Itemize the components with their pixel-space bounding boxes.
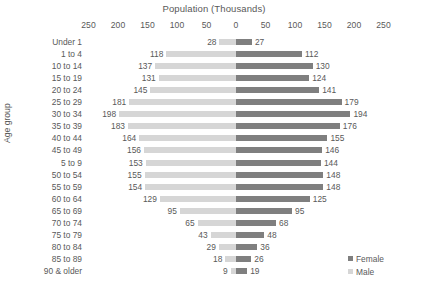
value-label-male: 118 [150,49,163,59]
value-label-male: 154 [128,182,142,192]
chart-row: 50 to 54155148 [0,169,428,181]
x-axis-tick-9: 200 [347,20,361,30]
value-label-female: 144 [324,158,338,168]
value-label-male: 155 [128,170,142,180]
value-label-female: 179 [345,97,359,107]
category-label: 60 to 64 [0,194,82,204]
value-label-female: 48 [267,230,276,240]
x-axis-tick-0: 250 [81,20,95,30]
chart-row: 10 to 14137130 [0,60,428,72]
bar-female [236,172,323,178]
bar-female [236,232,264,238]
bar-female [236,135,327,141]
bar-female [236,208,292,214]
bar-female [236,75,309,81]
category-label: 70 to 74 [0,218,82,228]
chart-row: Under 12827 [0,36,428,48]
chart-row: 70 to 746568 [0,217,428,229]
category-label: 10 to 14 [0,61,82,71]
bar-male [139,135,236,141]
chart-row: 60 to 64129125 [0,193,428,205]
bar-female [236,147,322,153]
legend-item[interactable]: Male [348,265,384,278]
chart-row: 65 to 699595 [0,205,428,217]
category-label: 65 to 69 [0,206,82,216]
chart-row: 40 to 44164155 [0,132,428,144]
value-label-female: 125 [313,194,327,204]
value-label-female: 19 [250,266,259,276]
value-label-male: 95 [168,206,177,216]
value-label-male: 183 [111,121,125,131]
x-axis-tick-6: 50 [261,20,271,30]
bar-male [219,244,236,250]
plot-area: Under 128271 to 411811210 to 1413713015 … [0,36,428,286]
x-axis-tick-4: 50 [202,20,212,30]
category-label: 90 & older [0,266,82,276]
bar-male [119,111,236,117]
bar-male [211,232,236,238]
legend-item[interactable]: Female [348,252,384,265]
value-label-female: 130 [316,61,330,71]
bar-male [198,220,236,226]
value-label-male: 129 [143,194,157,204]
bar-female [236,87,319,93]
x-axis-tick-3: 100 [170,20,184,30]
bar-female [236,256,251,262]
bar-female [236,196,310,202]
category-label: 80 to 84 [0,242,82,252]
legend-swatch-icon [348,269,353,274]
bar-female [236,63,313,69]
value-label-female: 68 [279,218,288,228]
category-label: 1 to 4 [0,49,82,59]
bar-male [145,184,236,190]
value-label-male: 198 [102,109,116,119]
chart-row: 15 to 19131124 [0,72,428,84]
x-axis-tick-2: 150 [140,20,154,30]
bar-female [236,99,342,105]
bar-male [160,196,236,202]
category-label: 55 to 59 [0,182,82,192]
category-label: 20 to 24 [0,85,82,95]
value-label-male: 137 [138,61,152,71]
value-label-female: 95 [295,206,304,216]
category-label: 35 to 39 [0,121,82,131]
category-label: 45 to 49 [0,145,82,155]
value-label-male: 153 [129,158,143,168]
population-pyramid-chart: Population (Thousands) 25020015010050050… [0,0,428,305]
category-label: 85 to 89 [0,254,82,264]
value-label-female: 148 [326,182,340,192]
value-label-male: 164 [122,133,136,143]
chart-row: 30 to 34198194 [0,108,428,120]
bar-female [236,160,321,166]
x-axis-tick-1: 200 [111,20,125,30]
bar-male [155,63,236,69]
value-label-male: 156 [127,145,141,155]
value-label-male: 29 [207,242,216,252]
legend-swatch-icon [348,256,353,261]
chart-row: 1 to 4118112 [0,48,428,60]
bar-female [236,268,247,274]
bar-male [219,39,236,45]
category-label: 25 to 29 [0,97,82,107]
category-label: 30 to 34 [0,109,82,119]
chart-row: 55 to 59154148 [0,181,428,193]
value-label-male: 9 [223,266,228,276]
category-label: Under 1 [0,37,82,47]
value-label-male: 28 [207,37,216,47]
category-label: 15 to 19 [0,73,82,83]
category-label: 50 to 54 [0,170,82,180]
value-label-male: 145 [133,85,147,95]
bar-female [236,184,323,190]
chart-title: Population (Thousands) [0,3,428,14]
bar-male [159,75,236,81]
value-label-male: 18 [213,254,222,264]
value-label-female: 27 [255,37,264,47]
bar-female [236,244,257,250]
legend-label: Male [356,267,374,277]
bar-female [236,111,350,117]
value-label-female: 176 [343,121,357,131]
x-axis-tick-5: 0 [234,20,239,30]
chart-row: 5 to 9153144 [0,157,428,169]
x-axis-tick-10: 250 [376,20,390,30]
bar-male [166,51,236,57]
